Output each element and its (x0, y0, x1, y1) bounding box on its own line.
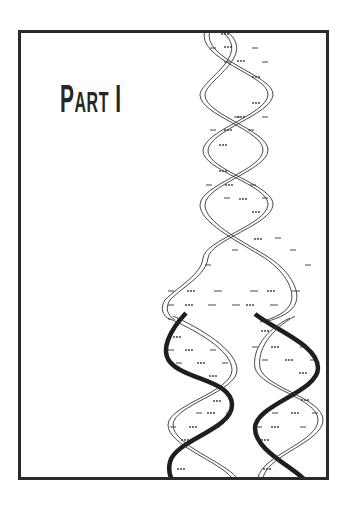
parent-helix (162, 30, 297, 322)
dna-helix-illustration (0, 0, 350, 508)
daughter-helix-left (166, 313, 237, 480)
daughter-helix-right (252, 314, 323, 480)
base-pair-dots (185, 33, 275, 306)
